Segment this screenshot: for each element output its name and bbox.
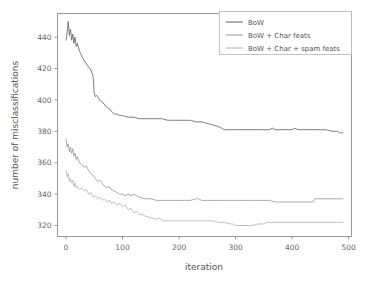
y-tick-label: 420 bbox=[37, 64, 52, 73]
y-tick-label: 400 bbox=[37, 96, 52, 105]
y-tick-label: 320 bbox=[37, 221, 52, 230]
y-tick-label: 360 bbox=[37, 158, 52, 167]
x-tick-label: 100 bbox=[115, 243, 130, 252]
x-axis-label: iteration bbox=[185, 262, 223, 272]
legend-label: BoW + Char + spam feats bbox=[248, 45, 340, 53]
y-tick-label: 380 bbox=[37, 127, 52, 136]
legend-label: BoW bbox=[248, 19, 264, 27]
x-tick-label: 500 bbox=[342, 243, 357, 252]
x-tick-label: 300 bbox=[228, 243, 243, 252]
y-axis-label: number of misclassifications bbox=[10, 61, 20, 190]
chart-figure: 0100200300400500 320340360380400420440 i… bbox=[0, 0, 371, 285]
x-tick-label: 0 bbox=[64, 243, 69, 252]
legend: BoWBoW + Char featsBoW + Char + spam fea… bbox=[220, 12, 352, 55]
y-tick-label: 440 bbox=[37, 33, 52, 42]
legend-label: BoW + Char feats bbox=[248, 32, 311, 40]
x-tick-label: 200 bbox=[172, 243, 187, 252]
x-tick-label: 400 bbox=[285, 243, 300, 252]
y-tick-label: 340 bbox=[37, 190, 52, 199]
